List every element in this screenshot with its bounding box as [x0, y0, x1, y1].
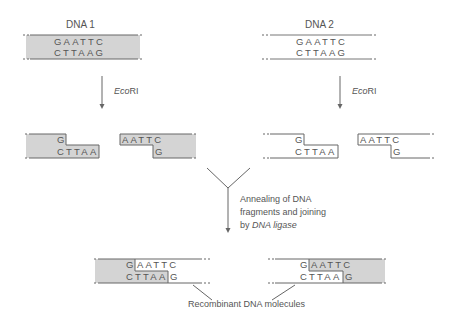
dna2-bottom-strand: CTTAAG	[296, 47, 347, 58]
dna1-bottom-strand: CTTAAG	[54, 47, 105, 58]
recomb-left-bottom-a: CTTAA	[126, 271, 167, 282]
dna1-title: DNA 1	[66, 19, 95, 30]
dna1-frag-right-top: AATTC	[122, 134, 163, 145]
dna1-top-strand: GAATTC	[54, 36, 105, 47]
recomb-right-top-a: G	[300, 259, 310, 270]
dna1-frag-left-bottom: CTTAA	[57, 146, 98, 157]
recomb-left-top-a: G	[126, 259, 136, 270]
dna2-frag-right-top: AATTC	[360, 134, 401, 145]
recomb-right-top-b: AATTC	[311, 259, 352, 270]
recomb-left-top-b: AATTC	[137, 259, 178, 270]
dna2-title: DNA 2	[305, 19, 334, 30]
recombinant-label: Recombinant DNA molecules	[188, 299, 305, 309]
dna2-frag-left-top: G	[295, 134, 305, 145]
dna1-frag-right-bottom: G	[155, 146, 165, 157]
recomb-left-bottom-b: G	[170, 271, 180, 282]
dna2-frag-left-bottom: CTTAA	[295, 146, 336, 157]
annealing-label: Annealing of DNA fragments and joining b…	[240, 193, 326, 232]
enzyme-label-left: EcoRI	[114, 86, 139, 96]
dna2-frag-right-bottom: G	[393, 146, 403, 157]
dna1-frag-left-top: G	[57, 134, 67, 145]
enzyme-label-right: EcoRI	[352, 86, 377, 96]
recomb-right-bottom-b: G	[345, 271, 355, 282]
recomb-right-bottom-a: CTTAA	[300, 271, 341, 282]
dna2-top-strand: GAATTC	[296, 36, 347, 47]
